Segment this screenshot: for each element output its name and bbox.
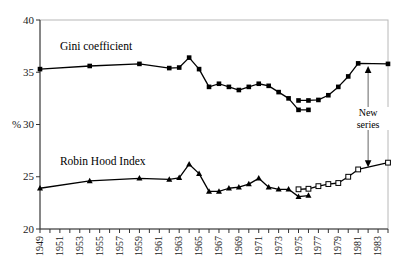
chart-container: 2025303540 19491951195319551957195919611…	[0, 0, 410, 277]
annotation-new-series-line1: New	[359, 107, 378, 118]
x-tick-label-1951: 1951	[55, 236, 65, 256]
x-tick-label-1955: 1955	[95, 236, 105, 256]
x-tick-label-1973: 1973	[274, 236, 284, 256]
series-label-gini-coefficient: Gini coefficient	[60, 41, 132, 53]
y-tick-label-20: 20	[8, 224, 34, 235]
x-tick-label-1963: 1963	[174, 236, 184, 256]
y-tick-label-40: 40	[8, 15, 34, 26]
x-tick-label-1957: 1957	[115, 236, 125, 256]
x-tick-label-1959: 1959	[134, 236, 144, 256]
x-tick-label-1953: 1953	[75, 236, 85, 256]
x-tick-label-1965: 1965	[194, 236, 204, 256]
x-tick-label-1969: 1969	[234, 236, 244, 256]
series-line-gini-new	[299, 63, 388, 100]
x-tick-label-1971: 1971	[254, 236, 264, 256]
y-axis-unit-label: %	[12, 119, 21, 130]
series-markers-gini-old	[38, 55, 311, 112]
x-tick-label-1949: 1949	[35, 236, 45, 256]
x-tick-label-1977: 1977	[313, 236, 323, 256]
annotation-new-series: New series	[346, 107, 390, 130]
x-tick-label-1967: 1967	[214, 236, 224, 256]
x-tick-label-1961: 1961	[154, 236, 164, 256]
y-tick-label-35: 35	[8, 67, 34, 78]
x-tick-label-1979: 1979	[333, 236, 343, 256]
annotation-new-series-line2: series	[357, 119, 380, 130]
y-tick-label-25: 25	[8, 171, 34, 182]
data-series-group	[37, 55, 390, 199]
x-tick-label-1975: 1975	[294, 236, 304, 256]
series-line-rh-new	[299, 163, 388, 190]
x-tick-label-1981: 1981	[353, 236, 363, 256]
series-line-rh-old	[40, 164, 308, 196]
x-tick-label-1983: 1983	[373, 236, 383, 256]
series-label-robin-hood-index: Robin Hood Index	[60, 156, 146, 168]
